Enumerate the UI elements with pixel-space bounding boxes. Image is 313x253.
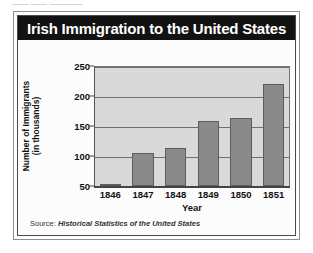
- source-label: Source:: [30, 219, 56, 228]
- y-axis-title-line1: Number of Immigrants: [21, 81, 31, 172]
- source-work-title: Historical Statistics of the United Stat…: [58, 219, 200, 228]
- bar-1849: [198, 121, 220, 186]
- bar-1851: [263, 84, 285, 186]
- x-axis-tick-labels: 184618471848184918501851: [94, 189, 290, 201]
- y-tick-label-200: 200: [36, 91, 90, 102]
- x-tick-label-1848: 1848: [159, 189, 192, 200]
- chart-card-inner-border: Irish Immigration to the United States N…: [17, 15, 296, 236]
- x-axis-line: [94, 186, 290, 188]
- chart-title-bar: Irish Immigration to the United States: [18, 16, 295, 40]
- x-tick-label-1850: 1850: [225, 189, 258, 200]
- source-note: Source: Historical Statistics of the Uni…: [30, 219, 200, 228]
- y-tick-label-150: 150: [36, 121, 90, 132]
- x-axis-title: Year: [94, 202, 290, 213]
- y-tick-label-100: 100: [36, 151, 90, 162]
- chart-card: Irish Immigration to the United States N…: [13, 11, 300, 240]
- bar-series: [94, 66, 290, 186]
- bar-1850: [230, 118, 252, 186]
- y-tick-label-250: 250: [36, 61, 90, 72]
- chart-body: Number of Immigrants (in thousands) 5010…: [18, 40, 295, 235]
- x-tick-label-1847: 1847: [127, 189, 160, 200]
- cropped-header-text: —— —— ————: [12, 0, 162, 8]
- x-tick-label-1846: 1846: [94, 189, 127, 200]
- bar-1847: [132, 153, 154, 186]
- y-tick-label-50: 50: [36, 181, 90, 192]
- x-tick-label-1849: 1849: [192, 189, 225, 200]
- page-title: Irish Immigration to the United States: [27, 20, 286, 37]
- x-tick-label-1851: 1851: [257, 189, 290, 200]
- bar-1848: [165, 148, 187, 186]
- bar-1846: [100, 184, 122, 186]
